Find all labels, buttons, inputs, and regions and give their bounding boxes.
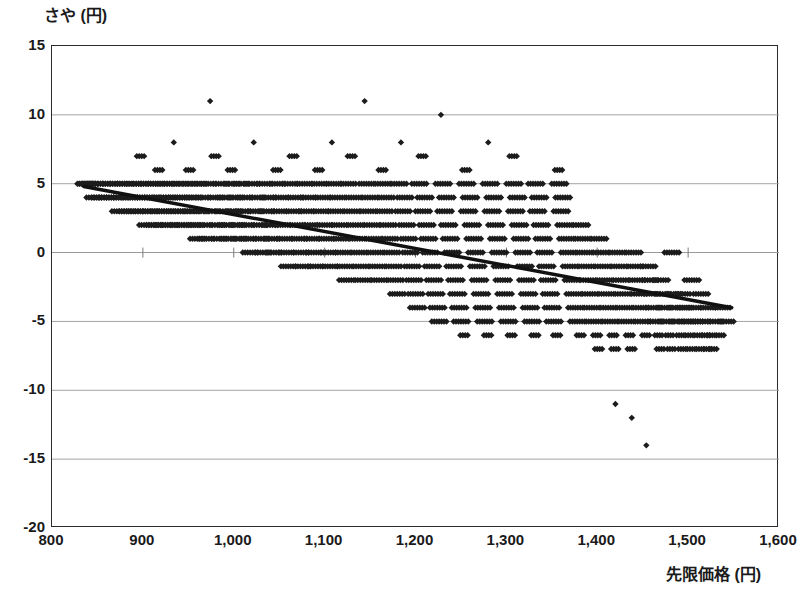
- scatter-point: [171, 139, 177, 145]
- scatter-point: [438, 112, 444, 118]
- scatter-point: [207, 98, 213, 104]
- scatter-point: [643, 442, 649, 448]
- x-tick-label: 1,500: [668, 532, 706, 547]
- x-tick-label: 800: [38, 532, 63, 547]
- trend-line-path: [84, 186, 732, 307]
- x-tick-label: 1,400: [577, 532, 615, 547]
- scatter-point: [329, 139, 335, 145]
- x-tick-label: 900: [129, 532, 154, 547]
- scatter-point: [398, 139, 404, 145]
- plot-area: [51, 45, 778, 527]
- scatter-points: [74, 98, 737, 449]
- x-tick-label: 1,300: [487, 532, 525, 547]
- scatter-chart: さや (円) 151050-5-10-15-20 8009001,0001,10…: [0, 0, 809, 594]
- scatter-point: [612, 401, 618, 407]
- gridlines: [52, 115, 779, 459]
- trend-line: [84, 186, 732, 307]
- x-tick-label: 1,600: [759, 532, 797, 547]
- x-tick-label: 1,200: [396, 532, 434, 547]
- plot-svg: [52, 46, 779, 528]
- x-axis-title: 先限価格 (円): [666, 561, 761, 585]
- scatter-point: [361, 98, 367, 104]
- scatter-point: [251, 139, 257, 145]
- x-tick-label: 1,000: [214, 532, 252, 547]
- scatter-point: [629, 415, 635, 421]
- scatter-point: [485, 139, 491, 145]
- x-tick-label: 1,100: [305, 532, 343, 547]
